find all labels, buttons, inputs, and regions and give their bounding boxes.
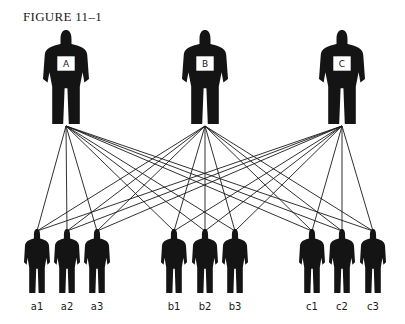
bottom-person-a1: a1 — [24, 229, 50, 312]
diagram-canvas: ABC a1a2a3b1b2b3c1c2c3 — [0, 0, 405, 324]
person-label: b2 — [199, 301, 212, 312]
top-person-C: C — [319, 30, 365, 124]
person-label: c1 — [306, 301, 318, 312]
person-silhouette-icon — [84, 229, 110, 293]
person-silhouette-icon — [360, 229, 386, 293]
bottom-person-a2: a2 — [54, 229, 80, 312]
top-person-A: A — [43, 30, 89, 124]
person-label: b1 — [168, 301, 181, 312]
bottom-people-group: a1a2a3b1b2b3c1c2c3 — [24, 229, 386, 312]
person-silhouette-icon — [192, 229, 218, 293]
person-label: c2 — [336, 301, 348, 312]
person-label: c3 — [367, 301, 379, 312]
top-person-B: B — [182, 30, 228, 124]
bottom-person-c3: c3 — [360, 229, 386, 312]
person-silhouette-icon — [299, 229, 325, 293]
connection-line-B-a1 — [37, 126, 205, 231]
connection-line-A-a2 — [66, 126, 67, 231]
top-people-group: ABC — [43, 30, 365, 124]
person-label: a2 — [61, 301, 74, 312]
bottom-person-b1: b1 — [161, 229, 187, 312]
person-silhouette-icon — [319, 30, 365, 124]
person-silhouette-icon — [182, 30, 228, 124]
badge-label: B — [202, 59, 208, 69]
bottom-person-b3: b3 — [222, 229, 248, 312]
person-silhouette-icon — [161, 229, 187, 293]
connection-line-C-c3 — [342, 126, 373, 231]
bottom-person-a3: a3 — [84, 229, 110, 312]
connection-line-C-a3 — [97, 126, 342, 231]
person-silhouette-icon — [222, 229, 248, 293]
bottom-person-c1: c1 — [299, 229, 325, 312]
bottom-person-b2: b2 — [192, 229, 218, 312]
person-label: b3 — [229, 301, 242, 312]
person-silhouette-icon — [24, 229, 50, 293]
badge-label: C — [339, 59, 345, 69]
connection-lines — [37, 126, 373, 231]
bottom-person-c2: c2 — [329, 229, 355, 312]
person-silhouette-icon — [329, 229, 355, 293]
person-label: a3 — [91, 301, 104, 312]
badge-label: A — [63, 59, 70, 69]
person-silhouette-icon — [54, 229, 80, 293]
person-label: a1 — [31, 301, 44, 312]
person-silhouette-icon — [43, 30, 89, 124]
